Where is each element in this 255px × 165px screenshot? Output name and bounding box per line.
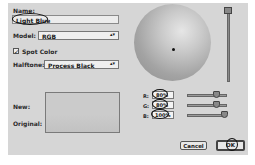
color-picker-marker[interactable]	[172, 48, 175, 51]
annotation-circle-r	[152, 89, 168, 99]
g-label: G:	[143, 103, 149, 109]
brightness-slider-track[interactable]	[227, 10, 230, 82]
color-preview-swatch	[45, 92, 120, 133]
r-slider-track[interactable]	[187, 94, 227, 97]
new-label: New:	[13, 103, 30, 110]
g-slider-thumb[interactable]	[213, 101, 220, 108]
b-label: B:	[143, 113, 149, 119]
r-slider-thumb[interactable]	[213, 91, 220, 98]
select-arrows-icon: ▴▾	[110, 61, 115, 66]
cancel-button[interactable]: Cancel	[180, 141, 207, 150]
original-label: Original:	[13, 120, 42, 127]
annotation-circle-name	[12, 13, 48, 25]
color-dialog	[8, 3, 248, 155]
spot-color-checkbox[interactable]: ✓	[13, 48, 19, 54]
b-slider-thumb[interactable]	[221, 111, 228, 118]
annotation-circle-g	[152, 99, 168, 109]
g-slider-track[interactable]	[187, 104, 227, 107]
annotation-circle-ok	[226, 138, 238, 151]
model-label: Model:	[13, 32, 36, 39]
model-select[interactable]: RGB ▴▾	[38, 31, 119, 40]
halftone-select[interactable]: Process Black ▴▾	[44, 60, 119, 69]
color-wheel[interactable]	[134, 4, 211, 81]
brightness-slider-thumb[interactable]	[224, 7, 232, 14]
spot-color-label: Spot Color	[22, 48, 57, 55]
halftone-value: Process Black	[48, 62, 95, 69]
select-arrows-icon: ▴▾	[110, 32, 115, 37]
r-label: R:	[143, 93, 149, 99]
annotation-circle-b	[151, 109, 169, 119]
halftone-label: Halftone:	[13, 61, 44, 68]
model-value: RGB	[42, 33, 56, 40]
